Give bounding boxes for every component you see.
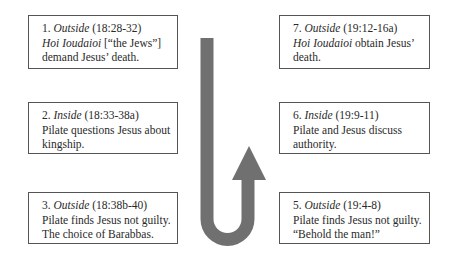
u-turn-arrow-icon <box>0 0 451 275</box>
u-turn-arrowhead <box>232 146 266 180</box>
u-turn-arrow-stem <box>207 38 248 239</box>
